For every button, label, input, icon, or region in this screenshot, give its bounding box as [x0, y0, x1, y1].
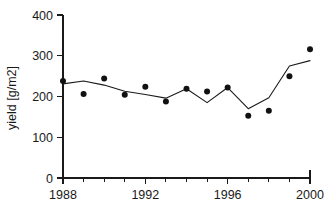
y-axis-title: yield [g/m2] [5, 66, 19, 130]
data-point [81, 91, 87, 97]
data-point [307, 46, 313, 52]
observed-yield-points [60, 46, 313, 118]
data-point [163, 98, 169, 104]
y-tick-label-400: 400 [32, 9, 53, 23]
y-axis-ticks [57, 15, 63, 178]
data-point [184, 86, 190, 92]
modelled-yield-line [63, 61, 310, 109]
y-tick-label-300: 300 [32, 49, 53, 63]
y-tick-label-100: 100 [32, 131, 53, 145]
x-axis-ticks [63, 178, 310, 184]
data-point [142, 84, 148, 90]
data-point [245, 113, 251, 119]
data-point [286, 73, 292, 79]
data-point [266, 108, 272, 114]
chart-container: yield [g/m2] 400 300 200 100 0 [0, 0, 336, 221]
x-tick-label-1992: 1992 [131, 188, 159, 202]
data-point [122, 92, 128, 98]
data-point [204, 89, 210, 95]
y-tick-label-0: 0 [46, 172, 53, 186]
x-tick-label-1996: 1996 [214, 188, 242, 202]
y-tick-label-200: 200 [32, 90, 53, 104]
x-axis-tick-labels: 1988 1992 1996 2000 [49, 188, 324, 202]
data-point [60, 78, 66, 84]
x-tick-label-1988: 1988 [49, 188, 77, 202]
data-point [101, 76, 107, 82]
yield-time-series-chart: yield [g/m2] 400 300 200 100 0 [0, 0, 336, 221]
x-tick-label-2000: 2000 [296, 188, 324, 202]
data-point [225, 85, 231, 91]
y-axis-tick-labels: 400 300 200 100 0 [32, 9, 53, 186]
